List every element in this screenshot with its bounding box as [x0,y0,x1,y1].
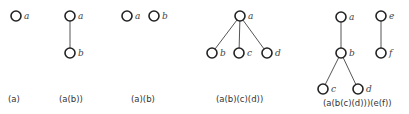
node-label-d: d [275,48,281,58]
node-d [353,84,363,94]
node-b [65,48,75,58]
node-label-c: c [247,48,252,58]
edge-b-c [325,57,339,84]
node-e [376,11,386,21]
node-c [318,84,328,94]
edge-b-d [343,58,356,85]
node-label-d: d [366,84,372,94]
node-label-a: a [24,11,29,21]
tree-caption: (a)(b) [131,94,155,104]
node-d [262,48,272,58]
edge-a-d [243,20,264,49]
tree-caption: (a(b)) [59,94,83,104]
tree-diagram: a(a)ab(a(b))ab(a)(b)abcd(a(b)(c)(d))abcd… [0,0,409,114]
node-label-a: a [349,12,354,22]
node-label-f: f [388,48,394,58]
tree-caption: (a(b)(c)(d)) [216,94,263,104]
node-a [336,12,346,22]
node-label-b: b [162,11,168,21]
node-a [65,11,75,21]
node-label-a: a [78,11,83,21]
node-label-b: b [220,48,226,58]
node-a [11,11,21,21]
edge-a-b [215,20,237,49]
node-a [122,11,132,21]
tree-t3: ab(a)(b) [122,11,168,104]
edge-a-c [239,21,240,48]
node-label-a: a [248,11,253,21]
node-a [235,11,245,21]
node-b [149,11,159,21]
tree-caption: (a) [8,94,20,104]
node-c [234,48,244,58]
tree-t4: abcd(a(b)(c)(d)) [207,11,281,104]
node-label-c: c [331,84,336,94]
node-label-b: b [78,48,84,58]
node-b [336,48,346,58]
node-label-e: e [389,11,394,21]
node-label-b: b [349,48,355,58]
node-f [376,48,386,58]
tree-t5: abcdef(a(b(c)(d)))(e(f)) [318,11,394,108]
tree-t2: ab(a(b)) [59,11,84,104]
tree-t1: a(a) [8,11,29,104]
tree-caption: (a(b(c)(d)))(e(f)) [323,98,392,108]
node-b [207,48,217,58]
node-label-a: a [135,11,140,21]
